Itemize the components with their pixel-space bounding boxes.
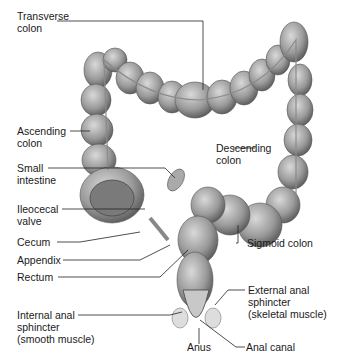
label-ascending-colon: Ascending colon bbox=[17, 125, 66, 149]
label-internal-anal-sphincter: Internal anal sphincter (smooth muscle) bbox=[17, 309, 95, 345]
label-sigmoid-colon: Sigmoid colon bbox=[247, 237, 313, 249]
label-rectum: Rectum bbox=[17, 271, 53, 283]
label-ileocecal-valve: Ileocecal valve bbox=[17, 203, 58, 227]
label-cecum: Cecum bbox=[17, 236, 50, 248]
label-transverse-colon: Transverse colon bbox=[17, 10, 69, 34]
large-intestine-diagram: Transverse colon Ascending colon Small i… bbox=[0, 0, 337, 360]
label-anus: Anus bbox=[187, 341, 211, 353]
label-small-intestine: Small intestine bbox=[17, 162, 56, 186]
label-external-anal-sphincter: External anal sphincter (skeletal muscle… bbox=[248, 284, 327, 320]
label-anal-canal: Anal canal bbox=[246, 341, 295, 353]
label-appendix: Appendix bbox=[17, 254, 61, 266]
label-descending-colon: Descending colon bbox=[216, 142, 271, 166]
